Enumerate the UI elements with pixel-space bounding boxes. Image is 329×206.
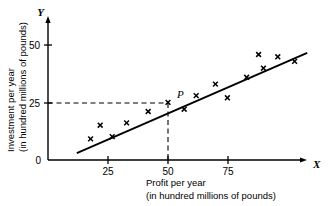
data-point-marker xyxy=(261,66,266,71)
data-point-marker xyxy=(213,82,218,87)
annotation-guide-lines xyxy=(48,103,168,160)
origin-label: 0 xyxy=(35,155,41,166)
annotation-label-p: P xyxy=(176,88,184,100)
x-tick-label-25: 25 xyxy=(102,166,114,177)
x-tick-label-50: 50 xyxy=(162,166,174,177)
data-point-marker xyxy=(146,109,151,114)
y-tick-label-25: 25 xyxy=(29,98,41,109)
y-axis xyxy=(45,16,50,160)
y-axis-letter: Y xyxy=(37,6,45,18)
x-axis-sublabel: (in hundred millions of pounds) xyxy=(146,190,276,201)
y-axis-label: Investment per year xyxy=(5,68,16,152)
data-point-marker xyxy=(88,137,93,142)
x-tick-label-75: 75 xyxy=(222,166,234,177)
data-point-marker xyxy=(124,121,129,126)
data-point-marker xyxy=(292,59,297,64)
y-axis-sublabel: (in hundred millions of pounds) xyxy=(17,22,28,152)
y-tick-label-50: 50 xyxy=(29,40,41,51)
scatter-plot-figure: 50 25 0 25 50 75 Y X xyxy=(0,0,329,206)
data-point-marker xyxy=(275,54,280,59)
data-point-marker xyxy=(182,107,187,112)
x-axis xyxy=(48,157,307,162)
data-point-marker xyxy=(256,52,261,57)
data-point-marker xyxy=(98,123,103,128)
data-point-marker xyxy=(225,95,230,100)
plot-canvas: 50 25 0 25 50 75 Y X xyxy=(0,0,329,206)
x-axis-label: Profit per year xyxy=(146,177,206,188)
data-points xyxy=(88,52,297,141)
x-axis-letter: X xyxy=(312,158,321,170)
data-point-marker xyxy=(194,93,199,98)
